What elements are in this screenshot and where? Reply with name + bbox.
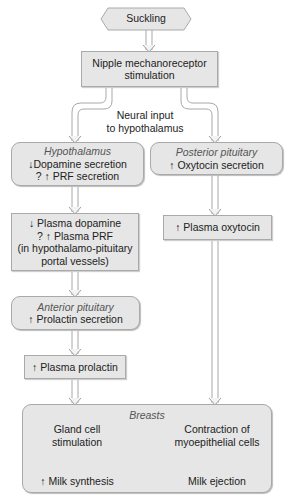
gland-line1: Gland cell <box>31 423 123 436</box>
plasma-oxytocin-box: ↑ Plasma oxytocin <box>163 215 272 240</box>
hypothalamus-title: Hypothalamus <box>44 145 111 158</box>
plasma-prolactin-line1: ↑ Plasma prolactin <box>32 361 118 374</box>
anterior-pituitary-box: Anterior pituitary ↑ Prolactin secretion <box>11 296 140 330</box>
plasma-dopamine-box: ↓ Plasma dopamine ? ↑ Plasma PRF (in hyp… <box>11 213 139 271</box>
anterior-pituitary-title: Anterior pituitary <box>37 301 113 314</box>
hypothalamus-line1: ↓Dopamine secretion <box>28 158 127 171</box>
plasma-oxytocin-line1: ↑ Plasma oxytocin <box>175 221 260 234</box>
neural-line2: to hypothalamus <box>90 122 200 135</box>
myo-line1: Contraction of <box>161 423 273 436</box>
nipple-line1: Nipple mechanoreceptor <box>92 57 206 70</box>
plasma-dopamine-line4: portal vessels) <box>41 255 109 268</box>
hypothalamus-line2: ? ↑ PRF secretion <box>36 170 119 183</box>
myo-line2: myoepithelial cells <box>161 436 273 449</box>
plasma-prolactin-box: ↑ Plasma prolactin <box>24 355 126 379</box>
breasts-title: Breasts <box>23 409 271 422</box>
anterior-pituitary-line1: ↑ Prolactin secretion <box>28 313 123 326</box>
posterior-pituitary-line1: ↑ Oxytocin secretion <box>169 159 264 172</box>
hypothalamus-box: Hypothalamus ↓Dopamine secretion ? ↑ PRF… <box>11 142 144 186</box>
nipple-line2: stimulation <box>124 69 174 82</box>
plasma-dopamine-line2: ? ↑ Plasma PRF <box>37 230 113 243</box>
milk-synthesis-label: ↑ Milk synthesis <box>27 475 127 488</box>
posterior-pituitary-title: Posterior pituitary <box>176 146 258 159</box>
nipple-stimulation-box: Nipple mechanoreceptor stimulation <box>81 51 218 87</box>
neural-input-label: Neural input to hypothalamus <box>90 109 200 134</box>
suckling-label: Suckling <box>100 12 192 25</box>
gland-cell-text: Gland cell stimulation <box>31 423 123 448</box>
milk-ejection-label: Milk ejection <box>161 475 273 488</box>
plasma-dopamine-line3: (in hypothalamo-pituitary <box>18 242 133 255</box>
plasma-dopamine-line1: ↓ Plasma dopamine <box>29 217 121 230</box>
breasts-box: Breasts Gland cell stimulation Contracti… <box>22 404 272 493</box>
myoepithelial-text: Contraction of myoepithelial cells <box>161 423 273 448</box>
neural-line1: Neural input <box>90 109 200 122</box>
posterior-pituitary-box: Posterior pituitary ↑ Oxytocin secretion <box>150 142 283 175</box>
gland-line2: stimulation <box>31 436 123 449</box>
